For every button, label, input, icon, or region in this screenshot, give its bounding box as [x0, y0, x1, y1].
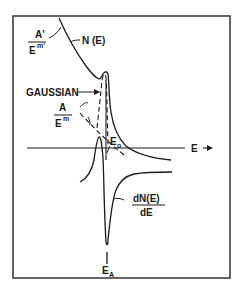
label-ea: E: [102, 265, 109, 276]
label-lower-background-numerator: A: [59, 102, 66, 113]
leader-n-of-e: [71, 40, 80, 42]
leader-gaussian-arrowhead-icon: [94, 89, 100, 95]
bracket-lower-background: [88, 117, 90, 125]
energy-axis-arrowhead-icon: [207, 145, 213, 151]
leader-derivative: [113, 198, 124, 200]
label-upper-background-denominator: E: [29, 45, 36, 56]
label-lower-background-exponent: m: [63, 115, 69, 122]
label-upper-background-exponent: m': [37, 42, 45, 49]
label-derivative-denominator: dE: [140, 207, 153, 218]
label-derivative-numerator: dN(E): [133, 193, 160, 204]
leader-e0: [107, 146, 110, 153]
label-energy-axis: E: [191, 143, 198, 154]
label-e0-subscript: o: [117, 142, 121, 149]
label-n-of-e: N (E): [82, 35, 105, 46]
label-upper-background-numerator: A': [35, 29, 45, 40]
derivative-curve: [80, 137, 172, 245]
leader-lower-background: [80, 103, 88, 107]
label-ea-subscript: A: [109, 271, 114, 278]
label-e0: E: [110, 136, 117, 147]
label-gaussian: GAUSSIAN: [26, 87, 79, 98]
leader-upper-background: [49, 27, 61, 38]
label-lower-background-denominator: E: [55, 118, 62, 129]
auger-spectrum-diagram: A' E m' N (E) GAUSSIAN A E m E o E dN(E)…: [0, 0, 242, 287]
